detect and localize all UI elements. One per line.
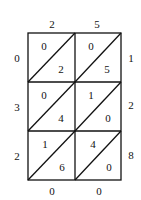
left-digit: 0 <box>11 53 23 64</box>
cell-tens: 0 <box>38 90 50 101</box>
cell-ones: 5 <box>101 64 113 75</box>
cell-ones: 0 <box>103 162 115 173</box>
left-digit: 3 <box>11 102 23 113</box>
left-digit: 2 <box>11 151 23 162</box>
cell-tens: 0 <box>85 41 97 52</box>
cell-tens: 1 <box>85 90 97 101</box>
cell-ones: 4 <box>55 113 67 124</box>
cell-tens: 1 <box>39 139 51 150</box>
right-digit: 8 <box>125 150 137 161</box>
cell-ones: 6 <box>56 162 68 173</box>
top-digit: 2 <box>46 19 58 30</box>
cell-tens: 0 <box>38 41 50 52</box>
right-digit: 1 <box>125 53 137 64</box>
bottom-digit: 0 <box>93 186 105 197</box>
right-digit: 2 <box>125 100 137 111</box>
top-digit: 5 <box>91 19 103 30</box>
lattice-grid <box>0 0 141 200</box>
cell-ones: 2 <box>55 64 67 75</box>
cell-tens: 4 <box>87 139 99 150</box>
cell-ones: 0 <box>102 113 114 124</box>
bottom-digit: 0 <box>46 186 58 197</box>
